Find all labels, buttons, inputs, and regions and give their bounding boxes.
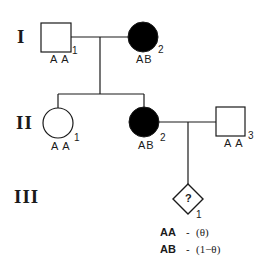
number-II2: 2 <box>160 132 166 143</box>
legend-genotype-aa: AA <box>160 226 186 238</box>
legend-probability-ab: (1−θ) <box>196 243 220 255</box>
genotype-I2: AB <box>136 53 153 65</box>
legend-genotype-ab: AB <box>160 243 186 255</box>
legend-row-ab: AB - (1−θ) <box>160 243 220 255</box>
pedigree-lines <box>0 0 269 261</box>
unknown-genotype-mark: ? <box>185 192 192 204</box>
individual-I2-affected-female-circle[interactable] <box>128 22 158 52</box>
individual-II2-affected-female-circle[interactable] <box>129 107 159 137</box>
individual-II1-female-circle[interactable] <box>43 108 73 138</box>
generation-label-3: III <box>14 186 39 208</box>
genotype-I1: A A <box>50 53 70 65</box>
legend-probability-aa: (θ) <box>196 226 209 238</box>
number-III1: 1 <box>196 209 202 220</box>
number-I2: 2 <box>158 44 164 55</box>
number-I1: 1 <box>72 45 78 56</box>
generation-label-1: I <box>17 26 25 48</box>
genotype-II2: AB <box>138 139 155 151</box>
individual-II3-male-square[interactable] <box>216 107 245 136</box>
legend-dash-ab: - <box>186 243 196 255</box>
genotype-II3: A A <box>224 137 244 149</box>
number-II3: 3 <box>248 130 254 141</box>
legend-dash-aa: - <box>186 226 196 238</box>
number-II1: 1 <box>74 132 80 143</box>
legend-row-aa: AA - (θ) <box>160 226 209 238</box>
generation-label-2: II <box>16 112 33 134</box>
genotype-II1: A A <box>51 140 71 152</box>
individual-I1-male-square[interactable] <box>41 23 71 52</box>
